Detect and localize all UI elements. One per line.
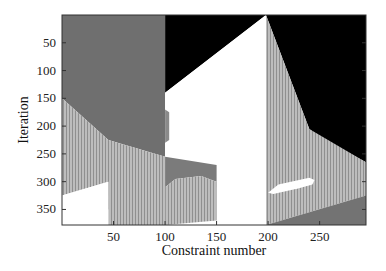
region-block2-stripes-small <box>165 109 169 142</box>
chart: 50100150200250 50100150200250300350 Cons… <box>0 0 386 271</box>
x-tick-label: 100 <box>155 229 175 244</box>
y-tick-label: 150 <box>37 90 57 105</box>
x-tick-label: 200 <box>258 229 278 244</box>
y-tick-label: 200 <box>37 118 57 133</box>
x-axis-label: Constraint number <box>162 243 267 258</box>
y-tick-label: 100 <box>37 63 57 78</box>
y-tick-label: 250 <box>37 146 57 161</box>
heatmap-regions <box>62 15 366 225</box>
x-tick-label: 150 <box>207 229 227 244</box>
plot-area <box>62 15 366 225</box>
x-tick-label: 250 <box>310 229 330 244</box>
y-tick-label: 350 <box>37 201 57 216</box>
x-tick-label: 50 <box>107 229 120 244</box>
region-block2-light <box>165 176 217 225</box>
y-tick-label: 50 <box>43 35 56 50</box>
y-axis-label: Iteration <box>16 96 31 143</box>
y-tick-label: 300 <box>37 174 57 189</box>
